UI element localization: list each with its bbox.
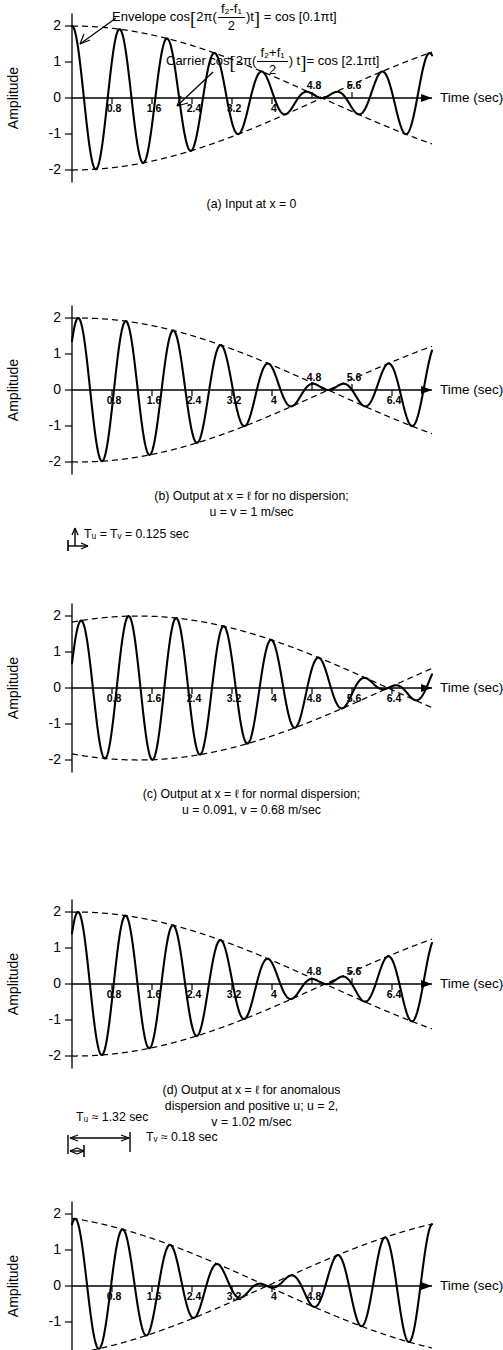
caption-a: (a) Input at x = 0 xyxy=(0,196,503,212)
y-tick-label: 2 xyxy=(53,17,61,33)
plot-c: 210-1-2AmplitudeTime (sec)0.81.62.43.244… xyxy=(0,560,503,786)
panel-d: Tᵥ ≈ 0.12 sec Tᵤ ≈ 0.06 sec 210-1-2Ampli… xyxy=(0,852,503,1148)
panel-e: Tᵤ ≈ -1.1 sec Tᵥ ≈ 0.065 210-1-2Amplitud… xyxy=(0,1148,503,1350)
caption-b: (b) Output at x = ℓ for no dispersion; u… xyxy=(0,488,503,520)
x-tick-label: 4.8 xyxy=(307,371,322,383)
x-axis-title: Time (sec) xyxy=(440,976,503,991)
panel-c: Tᵤ ≈ 1.32 sec Tᵥ ≈ 0.18 sec 210-1-2Ampli… xyxy=(0,560,503,852)
y-axis-title: Amplitude xyxy=(5,953,21,1015)
x-tick-label: 3.2 xyxy=(227,692,242,704)
x-axis-title: Time (sec) xyxy=(440,382,503,397)
x-tick-label: 4 xyxy=(271,1290,277,1302)
y-tick-label: 1 xyxy=(53,1241,61,1257)
y-axis-title: Amplitude xyxy=(5,1255,21,1317)
y-tick-label: -1 xyxy=(49,417,62,433)
y-tick-label: 0 xyxy=(53,381,61,397)
envelope-lower-curve xyxy=(72,668,432,760)
y-tick-label: -2 xyxy=(49,1047,62,1063)
x-tick-label: 4 xyxy=(271,394,277,406)
y-axis-title: Amplitude xyxy=(5,67,21,129)
waveform-plot-c: 210-1-2AmplitudeTime (sec)0.81.62.43.244… xyxy=(0,590,503,786)
x-tick-label: 4 xyxy=(271,692,277,704)
y-axis-title: Amplitude xyxy=(5,657,21,719)
x-tick-label: 1.6 xyxy=(147,1290,162,1302)
envelope-upper-curve xyxy=(72,616,432,708)
y-tick-label: -1 xyxy=(49,715,62,731)
x-tick-label: 2.4 xyxy=(187,394,202,406)
x-tick-label: 2.4 xyxy=(187,988,202,1000)
plot-a: 210-1-2AmplitudeTime (sec)0.81.62.43.244… xyxy=(0,0,503,196)
y-tick-label: 0 xyxy=(53,89,61,105)
envelope-upper-curve xyxy=(72,318,432,434)
x-tick-label: 6.4 xyxy=(387,692,402,704)
x-tick-label: 1.6 xyxy=(147,692,162,704)
caption-d: (d) Output at x = ℓ for anomalous disper… xyxy=(0,1082,503,1131)
y-tick-label: -1 xyxy=(49,1313,62,1329)
x-axis-title: Time (sec) xyxy=(440,680,503,695)
envelope-upper-curve xyxy=(72,26,432,144)
panel-a: Envelope cos[2π(f₂-f₁2)t] = cos [0.1πt] … xyxy=(0,0,503,268)
plot-b: 210-1-2AmplitudeTime (sec)0.81.62.43.244… xyxy=(0,268,503,488)
x-tick-label: 4.8 xyxy=(307,79,322,91)
x-axis-arrow xyxy=(421,1282,432,1290)
envelope-lower-curve xyxy=(72,346,432,462)
panel-b: Tᵤ = Tᵥ = 0.125 sec 210-1-2AmplitudeTime… xyxy=(0,268,503,560)
waveform-curve xyxy=(72,1219,432,1349)
x-tick-label: 2.4 xyxy=(187,102,202,114)
waveform-plot-d: 210-1-2AmplitudeTime (sec)0.81.62.43.244… xyxy=(0,886,503,1082)
y-tick-label: -2 xyxy=(49,161,62,177)
x-tick-label: 2.4 xyxy=(187,1290,202,1302)
y-tick-label: -2 xyxy=(49,751,62,767)
x-tick-label: 0.8 xyxy=(107,692,122,704)
plot-e: 210-1-2AmplitudeTime (sec)0.81.62.43.244… xyxy=(0,1148,503,1350)
plot-d: 210-1-2AmplitudeTime (sec)0.81.62.43.244… xyxy=(0,852,503,1082)
x-tick-label: 4.8 xyxy=(307,965,322,977)
panel-b-dimension-arrows xyxy=(66,526,106,552)
x-axis-title: Time (sec) xyxy=(440,1278,503,1293)
y-tick-label: -2 xyxy=(49,453,62,469)
x-axis-arrow xyxy=(421,94,432,102)
waveform-plot-e: 210-1-2AmplitudeTime (sec)0.81.62.43.244… xyxy=(0,1188,503,1350)
envelope-lower-curve xyxy=(72,939,432,1056)
x-axis-title: Time (sec) xyxy=(440,90,503,105)
y-tick-label: -1 xyxy=(49,1011,62,1027)
x-tick-label: 4 xyxy=(271,988,277,1000)
y-tick-label: -1 xyxy=(49,125,62,141)
y-tick-label: 1 xyxy=(53,939,61,955)
waveform-plot-a: 210-1-2AmplitudeTime (sec)0.81.62.43.244… xyxy=(0,0,503,196)
y-axis-title: Amplitude xyxy=(5,359,21,421)
y-tick-label: 0 xyxy=(53,975,61,991)
caption-c: (c) Output at x = ℓ for normal dispersio… xyxy=(0,786,503,818)
waveform-plot-b: 210-1-2AmplitudeTime (sec)0.81.62.43.244… xyxy=(0,292,503,488)
x-tick-label: 6.4 xyxy=(387,394,402,406)
x-tick-label: 4.8 xyxy=(307,692,322,704)
x-tick-label: 0.8 xyxy=(107,102,122,114)
y-tick-label: 2 xyxy=(53,309,61,325)
y-tick-label: 2 xyxy=(53,903,61,919)
envelope-lower-curve xyxy=(72,52,432,170)
y-tick-label: 1 xyxy=(53,53,61,69)
x-tick-label: 5.6 xyxy=(347,965,362,977)
y-tick-label: 0 xyxy=(53,679,61,695)
x-tick-label: 6.4 xyxy=(387,988,402,1000)
y-tick-label: 1 xyxy=(53,345,61,361)
y-tick-label: 0 xyxy=(53,1277,61,1293)
y-tick-label: 1 xyxy=(53,643,61,659)
y-tick-label: 2 xyxy=(53,607,61,623)
y-tick-label: 2 xyxy=(53,1205,61,1221)
envelope-upper-curve xyxy=(72,912,432,1029)
